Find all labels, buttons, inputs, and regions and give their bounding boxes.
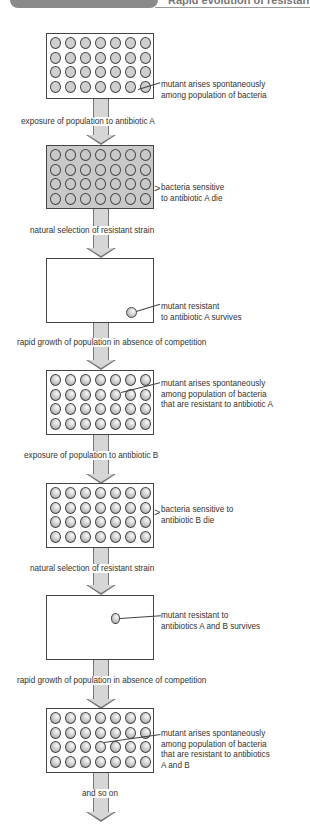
bacterium-icon [110, 37, 121, 49]
bacterium-icon [50, 418, 61, 430]
bacterium-icon [65, 712, 76, 724]
step-label-2: natural selection of resistant strain [28, 226, 156, 235]
bacterium-icon [125, 37, 136, 49]
bacterium-icon [50, 531, 61, 543]
brace-icon: > [154, 182, 160, 194]
bacterium-icon [50, 502, 61, 514]
brace-icon: > [154, 506, 160, 518]
bacterium-icon [125, 487, 136, 499]
bacterium-icon [65, 531, 76, 543]
bacterium-icon [50, 52, 61, 64]
bacterium-icon [110, 516, 121, 528]
bacterium-icon [140, 502, 151, 514]
bacterium-icon [95, 37, 106, 49]
bacterium-icon [125, 403, 136, 415]
bacterium-icon [140, 164, 151, 176]
flow-arrow-head-icon [86, 812, 116, 822]
bacterium-icon [125, 374, 136, 386]
bacterium-icon [140, 389, 151, 401]
bacterium-icon [80, 756, 91, 768]
bacterium-icon [50, 66, 61, 78]
bacterium-icon [125, 52, 136, 64]
bacterium-icon [65, 149, 76, 161]
flow-arrow-head-icon [86, 248, 116, 258]
bacterium-icon [50, 193, 61, 205]
bacterium-icon [50, 81, 61, 93]
bacterium-icon [125, 741, 136, 753]
bacterium-icon [80, 389, 91, 401]
bacteria-grid [50, 149, 152, 207]
bacterium-icon [110, 487, 121, 499]
header-tab [10, 0, 158, 8]
bacterium-icon [140, 37, 151, 49]
bacterium-icon [65, 727, 76, 739]
bacterium-icon [95, 756, 106, 768]
step-label-6: rapid growth of population in absence of… [15, 676, 208, 685]
bacterium-icon [140, 149, 151, 161]
bacterium-icon [110, 756, 121, 768]
bacterium-icon [80, 712, 91, 724]
stage-note-2: bacteria sensitiveto antibiotic A die [161, 183, 224, 204]
bacterium-icon [50, 741, 61, 753]
bacterium-icon [50, 149, 61, 161]
bacterium-icon [65, 66, 76, 78]
bacterium-icon [95, 193, 106, 205]
survivor-box-3 [46, 258, 154, 323]
bacterium-icon [80, 374, 91, 386]
bacterium-icon [50, 403, 61, 415]
bacterium-icon [65, 741, 76, 753]
population-box-5 [46, 483, 154, 548]
bacterium-icon [95, 727, 106, 739]
bacterium-icon [95, 374, 106, 386]
bacterium-icon [65, 178, 76, 190]
bacterium-icon [140, 712, 151, 724]
bacterium-icon [80, 164, 91, 176]
bacterium-icon [65, 418, 76, 430]
stage-note-6: mutant resistant toantibiotics A and B s… [161, 611, 260, 632]
bacterium-icon [80, 403, 91, 415]
bacterium-icon [80, 66, 91, 78]
bacterium-icon [80, 531, 91, 543]
bacterium-icon [125, 756, 136, 768]
bacterium-icon [110, 727, 121, 739]
bacterium-icon [50, 164, 61, 176]
bacterium-icon [95, 487, 106, 499]
bacterium-icon [50, 389, 61, 401]
bacterium-icon [140, 52, 151, 64]
bacterium-icon [50, 727, 61, 739]
bacterium-icon [110, 193, 121, 205]
bacterium-icon [50, 756, 61, 768]
bacterium-icon [95, 418, 106, 430]
bacterium-icon [95, 389, 106, 401]
bacterium-icon [80, 502, 91, 514]
step-label-5: natural selection of resistant strain [28, 564, 156, 573]
bacterium-icon [140, 487, 151, 499]
bacterium-icon [80, 149, 91, 161]
bacterium-icon [80, 741, 91, 753]
bacterium-icon [125, 418, 136, 430]
bacterium-icon [125, 712, 136, 724]
bacterium-icon [110, 531, 121, 543]
bacteria-grid [50, 374, 152, 432]
bacterium-icon [65, 516, 76, 528]
step-label-4: exposure of population to antibiotic B [22, 451, 160, 460]
header-rule [155, 7, 310, 8]
bacterium-icon [110, 502, 121, 514]
bacterium-icon [110, 149, 121, 161]
bacterium-icon [80, 81, 91, 93]
bacteria-grid [50, 712, 152, 770]
bacterium-icon [140, 403, 151, 415]
bacterium-icon [65, 164, 76, 176]
bacterium-icon [110, 389, 121, 401]
flow-arrow-head-icon [86, 360, 116, 370]
bacterium-icon [95, 66, 106, 78]
bacterium-icon [50, 37, 61, 49]
bacterium-icon [110, 741, 121, 753]
bacterium-icon [140, 418, 151, 430]
stage-note-3: mutant resistantto antibiotic A survives [161, 302, 242, 323]
stage-note-1: mutant arises spontaneouslyamong populat… [161, 80, 267, 101]
step-label-1: exposure of population to antibiotic A [19, 117, 157, 126]
bacteria-grid [50, 37, 152, 95]
flow-arrow-head-icon [86, 135, 116, 145]
step-label-7: and so on [80, 789, 120, 798]
